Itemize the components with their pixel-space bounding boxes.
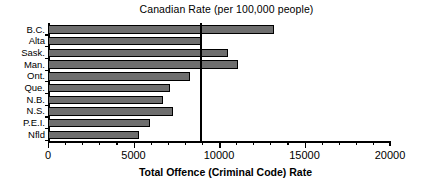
x-axis-tick-label: 15000 [289, 149, 320, 161]
bar [48, 37, 201, 45]
y-axis-tick [45, 116, 49, 117]
y-axis-tick [45, 46, 49, 47]
x-axis-minor-tick [287, 142, 288, 145]
x-axis-tick-label: 10000 [204, 149, 235, 161]
y-axis-tick [45, 70, 49, 71]
bar-row [48, 94, 390, 106]
y-axis-tick [45, 105, 49, 106]
x-axis-minor-tick [322, 142, 323, 145]
x-axis-minor-tick [82, 142, 83, 145]
bar-row [48, 118, 390, 130]
canadian-rate-reference-line [200, 23, 202, 142]
bar-row [48, 36, 390, 48]
bar [48, 119, 150, 127]
y-axis-tick [45, 128, 49, 129]
x-axis-minor-tick [253, 142, 254, 145]
x-axis-minor-tick [236, 142, 237, 145]
x-axis-minor-tick [116, 142, 117, 145]
x-axis-minor-tick [168, 142, 169, 145]
bar-chart: Canadian Rate (per 100,000 people) B.C.A… [0, 0, 431, 191]
y-axis-tick-label: Sask. [0, 47, 45, 59]
x-axis-major-tick [219, 142, 221, 148]
x-axis-minor-tick [151, 142, 152, 145]
x-axis-minor-tick [99, 142, 100, 145]
bar-row [48, 83, 390, 95]
bar [48, 84, 170, 92]
bar-row [48, 71, 390, 83]
y-axis-tick-label: N.B. [0, 94, 45, 106]
bar-row [48, 59, 390, 71]
y-axis-tick [45, 81, 49, 82]
bar [48, 60, 238, 68]
y-axis-tick-label: Ont. [0, 70, 45, 82]
x-axis-tick-label: 20000 [375, 149, 406, 161]
y-axis-tick [45, 34, 49, 35]
y-axis-tick-label: Man. [0, 59, 45, 71]
x-axis-major-tick [305, 142, 307, 148]
x-axis-minor-tick [373, 142, 374, 145]
chart-title: Canadian Rate (per 100,000 people) [0, 3, 431, 15]
x-axis-minor-tick [339, 142, 340, 145]
bar [48, 131, 139, 139]
y-axis-tick [45, 93, 49, 94]
bar-row [48, 47, 390, 59]
bar-row [48, 24, 390, 36]
x-axis-minor-tick [356, 142, 357, 145]
x-axis-tick-label: 0 [45, 149, 51, 161]
x-axis-minor-tick [185, 142, 186, 145]
y-axis-tick [45, 58, 49, 59]
bar [48, 96, 163, 104]
x-axis-minor-tick [270, 142, 271, 145]
bar-row [48, 129, 390, 141]
x-axis-major-tick [48, 142, 50, 148]
bar [48, 25, 274, 33]
y-axis-tick-label: N.S. [0, 105, 45, 117]
x-axis-major-tick [134, 142, 136, 148]
plot-area [48, 24, 390, 141]
y-axis-tick [45, 140, 49, 141]
y-axis-tick-label: P.E.I. [0, 117, 45, 129]
bar [48, 72, 190, 80]
y-axis-tick-label: Que. [0, 82, 45, 94]
y-axis-tick-labels: B.C.AltaSask.Man.Ont.Que.N.B.N.S.P.E.I.N… [0, 24, 45, 141]
y-axis-tick-label: Nfld [0, 129, 45, 141]
x-axis-tick-label: 5000 [121, 149, 145, 161]
y-axis-tick-label: Alta [0, 35, 45, 47]
x-axis-minor-tick [65, 142, 66, 145]
y-axis-tick-label: B.C. [0, 24, 45, 36]
x-axis-minor-tick [202, 142, 203, 145]
bar-row [48, 106, 390, 118]
x-axis-title: Total Offence (Criminal Code) Rate [0, 166, 431, 178]
x-axis-end-cap [389, 141, 391, 146]
bar [48, 107, 173, 115]
